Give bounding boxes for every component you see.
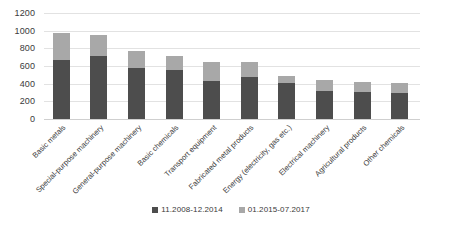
bar-group[interactable] <box>241 13 258 119</box>
bar-segment-series-1[interactable] <box>90 56 107 119</box>
bar-segment-series-2[interactable] <box>203 62 220 82</box>
stacked-bar-chart: 120010008006004002000 Basic metalsSpecia… <box>0 0 462 233</box>
bar-segment-series-2[interactable] <box>278 76 295 83</box>
bar-group[interactable] <box>354 13 371 119</box>
bar-group[interactable] <box>391 13 408 119</box>
bar-group[interactable] <box>128 13 145 119</box>
legend-item[interactable]: 01.2015-07.2017 <box>239 206 310 214</box>
bar-segment-series-1[interactable] <box>241 77 258 119</box>
bar-segment-series-2[interactable] <box>53 33 70 60</box>
y-axis-tick-label: 1200 <box>0 9 35 18</box>
bar-group[interactable] <box>316 13 333 119</box>
bar-segment-series-1[interactable] <box>278 83 295 119</box>
chart-legend: 11.2008-12.201401.2015-07.2017 <box>0 206 462 214</box>
bar-segment-series-2[interactable] <box>90 35 107 55</box>
bar-group[interactable] <box>166 13 183 119</box>
y-axis: 120010008006004002000 <box>0 0 40 132</box>
bar-group[interactable] <box>53 13 70 119</box>
plot-area <box>44 13 420 119</box>
bar-segment-series-1[interactable] <box>128 68 145 119</box>
legend-label: 11.2008-12.2014 <box>161 206 222 214</box>
bar-segment-series-1[interactable] <box>316 91 333 119</box>
bar-segment-series-2[interactable] <box>241 62 258 76</box>
legend-swatch-icon <box>239 207 245 213</box>
bar-segment-series-2[interactable] <box>354 82 371 92</box>
y-axis-tick-label: 0 <box>0 115 35 124</box>
y-axis-tick-label: 1000 <box>0 27 35 36</box>
legend-label: 01.2015-07.2017 <box>248 206 310 214</box>
bar-segment-series-1[interactable] <box>53 60 70 119</box>
bar-segment-series-2[interactable] <box>391 83 408 93</box>
legend-swatch-icon <box>152 207 158 213</box>
bar-segment-series-2[interactable] <box>316 80 333 91</box>
bar-group[interactable] <box>203 13 220 119</box>
bar-group[interactable] <box>278 13 295 119</box>
bar-group[interactable] <box>90 13 107 119</box>
axis-baseline <box>44 119 420 120</box>
y-axis-tick-label: 800 <box>0 44 35 53</box>
x-axis-labels: Basic metalsSpecial-purpose machineryGen… <box>44 121 420 199</box>
y-axis-tick-label: 200 <box>0 97 35 106</box>
bar-segment-series-2[interactable] <box>166 56 183 70</box>
legend-item[interactable]: 11.2008-12.2014 <box>152 206 222 214</box>
bar-segment-series-2[interactable] <box>128 51 145 68</box>
bar-segment-series-1[interactable] <box>166 70 183 119</box>
y-axis-tick-label: 600 <box>0 62 35 71</box>
y-axis-tick-label: 400 <box>0 80 35 89</box>
bar-segment-series-1[interactable] <box>391 93 408 119</box>
bar-segment-series-1[interactable] <box>354 92 371 119</box>
bar-segment-series-1[interactable] <box>203 81 220 119</box>
